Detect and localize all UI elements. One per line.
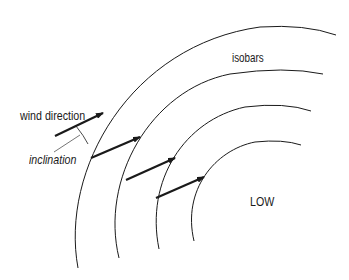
isobar-3 — [156, 105, 311, 249]
isobars-label: isobars — [232, 51, 264, 65]
low-pressure-label: LOW — [250, 194, 274, 209]
inclination-label: inclination — [29, 152, 76, 167]
isobar-wind-diagram — [0, 0, 349, 280]
isobar-2 — [115, 70, 323, 258]
isobar-4 — [192, 141, 301, 241]
wind-arrows-group — [55, 113, 204, 198]
wind-direction-label: wind direction — [20, 108, 85, 123]
inclination-leader-line — [54, 135, 80, 152]
inclination-angle-arc — [76, 126, 88, 144]
wind-arrow-2-icon — [91, 137, 140, 158]
